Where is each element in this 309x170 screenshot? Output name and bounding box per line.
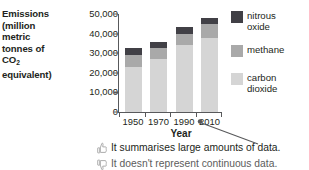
bar-segment-carbon-dioxide[interactable] [150, 59, 167, 112]
stacked-bar-chart-figure: Emissions (million metric tonnes of CO2 … [0, 0, 309, 170]
bar-segment-carbon-dioxide[interactable] [176, 45, 193, 112]
y-axis-tick-mark [114, 92, 118, 93]
bar-segment-nitrous-oxide[interactable] [176, 27, 193, 34]
y-axis-tick-mark [114, 33, 118, 34]
x-axis-tick-label: 1990 [171, 116, 197, 127]
thumbs-up-icon [96, 141, 109, 154]
bar-segment-nitrous-oxide[interactable] [125, 48, 142, 55]
y-axis-tick-mark [114, 53, 118, 54]
bar-segment-methane[interactable] [125, 55, 142, 67]
legend-label: methane [247, 44, 284, 55]
y-axis-title: Emissions (million metric tonnes of CO2 … [2, 8, 70, 81]
bar-segment-methane[interactable] [201, 24, 218, 38]
bar-segment-methane[interactable] [150, 48, 167, 59]
bar-segment-carbon-dioxide[interactable] [201, 38, 218, 112]
y-axis-tick-label: 40,000 [74, 29, 118, 38]
y-axis-tick-mark [114, 14, 118, 15]
y-axis-title-line-3: metric [2, 31, 70, 43]
plot-area: 010,00020,00030,00040,00050,000 19501970… [70, 6, 222, 132]
note-item: It summarises large amounts of data. [96, 141, 309, 154]
legend-label: carbon dioxide [247, 72, 277, 95]
note-item: It doesn't represent continuous data. [96, 157, 309, 170]
y-axis-title-subscript: 2 [16, 59, 20, 66]
bar-segment-methane[interactable] [176, 34, 193, 46]
y-axis-tick-label: 10,000 [74, 88, 118, 97]
bar-1990[interactable] [176, 27, 193, 112]
y-axis-tick-label: 50,000 [74, 9, 118, 18]
x-axis-tick-label: 1950 [120, 116, 146, 127]
note-text: It summarises large amounts of data. [111, 141, 280, 154]
notes-list: It summarises large amounts of data.It d… [96, 141, 309, 170]
y-axis-title-line-2: (million [2, 20, 70, 32]
thumbs-down-icon [96, 157, 109, 170]
y-axis-title-line-4: tonnes of [2, 43, 70, 55]
legend-swatch [231, 45, 243, 57]
y-axis-title-line-6: equivalent) [2, 69, 70, 81]
y-axis-tick-label: 30,000 [74, 49, 118, 58]
y-axis-title-co2: CO [2, 54, 16, 65]
y-axis-title-line-5: CO2 [2, 54, 70, 69]
legend-item-carbon-dioxide[interactable]: carbon dioxide [231, 72, 277, 95]
bar-segment-carbon-dioxide[interactable] [125, 67, 142, 112]
legend-item-nitrous-oxide[interactable]: nitrous oxide [231, 10, 276, 33]
y-axis-title-line-1: Emissions [2, 8, 70, 20]
x-axis-title: Year [148, 128, 214, 139]
x-axis-tick-label: 1970 [146, 116, 172, 127]
y-axis-tick-label: 20,000 [74, 68, 118, 77]
legend-item-methane[interactable]: methane [231, 44, 284, 57]
x-axis-tick-mark [221, 113, 222, 117]
y-axis-tick-label: 0 [74, 107, 118, 116]
note-text: It doesn't represent continuous data. [111, 157, 277, 170]
bar-2010[interactable] [201, 18, 218, 112]
y-axis-tick-mark [114, 112, 118, 113]
legend-label: nitrous oxide [247, 10, 276, 33]
legend-swatch [231, 11, 243, 23]
y-axis-tick-mark [114, 72, 118, 73]
bar-1970[interactable] [150, 42, 167, 112]
x-axis-tick-label: 2010 [197, 116, 223, 127]
bar-1950[interactable] [125, 48, 142, 112]
legend-swatch [231, 73, 243, 85]
